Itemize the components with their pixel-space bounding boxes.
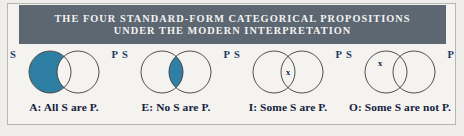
circle-s-o — [365, 51, 407, 93]
circle-p-o — [393, 51, 435, 93]
venn-graphic-i: x — [232, 47, 344, 99]
categorical-propositions-figure: THE FOUR STANDARD-FORM CATEGORICAL PROPO… — [0, 0, 464, 136]
venn-graphic-a — [8, 47, 120, 99]
venn-panel-e: S P E: No S are P. — [120, 47, 232, 123]
venn-caption-e: E: No S are P. — [120, 101, 232, 113]
figure-title-line-1: THE FOUR STANDARD-FORM CATEGORICAL PROPO… — [54, 13, 410, 25]
venn-caption-a: A: All S are P. — [8, 101, 120, 113]
venn-svg-e — [134, 47, 218, 97]
venn-graphic-e — [120, 47, 232, 99]
x-mark-s-only-o: x — [378, 58, 383, 68]
venn-diagram-row: S P — [8, 47, 456, 123]
venn-caption-i: I: Some S are P. — [232, 101, 344, 113]
figure-title-bar: THE FOUR STANDARD-FORM CATEGORICAL PROPO… — [19, 5, 446, 44]
venn-panel-o: S P x O: Some S are not P. — [344, 47, 456, 123]
venn-panel-i: S P x I: Some S are P. — [232, 47, 344, 123]
venn-svg-i: x — [246, 47, 330, 97]
x-mark-intersection-i: x — [286, 67, 291, 77]
venn-caption-o: O: Some S are not P. — [344, 101, 456, 113]
venn-svg-a — [22, 47, 106, 97]
venn-svg-o: x — [358, 47, 442, 97]
figure-title-line-2: UNDER THE MODERN INTERPRETATION — [114, 25, 352, 37]
venn-graphic-o: x — [344, 47, 456, 99]
venn-panel-a: S P — [8, 47, 120, 123]
